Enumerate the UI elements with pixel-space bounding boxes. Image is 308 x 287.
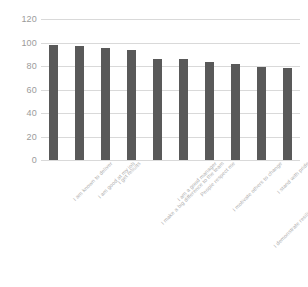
- y-tick-label: 80: [27, 61, 37, 71]
- y-tick-label: 40: [27, 108, 37, 118]
- bar: [75, 46, 84, 160]
- y-axis: 120100806040200: [0, 19, 37, 160]
- bar-chart: 120100806040200 I am known to deliverI a…: [0, 0, 308, 287]
- x-axis-label: I am known to deliver: [72, 161, 113, 202]
- bar: [49, 45, 58, 160]
- y-tick-label: 20: [27, 132, 37, 142]
- y-tick-label: 60: [27, 85, 37, 95]
- bar: [153, 59, 162, 160]
- bar: [283, 68, 292, 160]
- bar: [127, 50, 136, 160]
- plot-area: [41, 19, 300, 160]
- y-tick-label: 120: [21, 14, 37, 24]
- bar: [257, 67, 266, 160]
- y-tick-label: 100: [21, 38, 37, 48]
- x-axis-category-labels: I am known to deliverI am good at my job…: [0, 161, 308, 287]
- x-axis-label: I motivate others to change: [232, 161, 284, 213]
- bar: [231, 64, 240, 160]
- bar: [205, 62, 214, 160]
- x-axis-label: I make a big difference to the team: [160, 161, 225, 226]
- bar: [101, 48, 110, 160]
- bar: [179, 59, 188, 160]
- bars: [41, 19, 300, 160]
